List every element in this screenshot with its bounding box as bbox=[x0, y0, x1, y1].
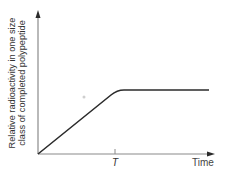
y-axis-label-line1: Relative radioactivity in one size bbox=[7, 13, 17, 153]
chart-figure: Relative radioactivity in one size class… bbox=[0, 0, 226, 180]
x-axis-arrow-icon bbox=[207, 152, 215, 157]
y-axis-arrow-icon bbox=[36, 10, 41, 18]
data-line bbox=[38, 90, 209, 154]
smudge bbox=[83, 96, 86, 99]
chart-plot-area bbox=[0, 0, 226, 180]
x-axis-label: Time bbox=[192, 157, 214, 168]
y-axis-label-line2: class of completed polypeptide bbox=[17, 13, 27, 153]
y-axis-label: Relative radioactivity in one size class… bbox=[7, 13, 27, 153]
tick-label-T: T bbox=[112, 157, 118, 168]
